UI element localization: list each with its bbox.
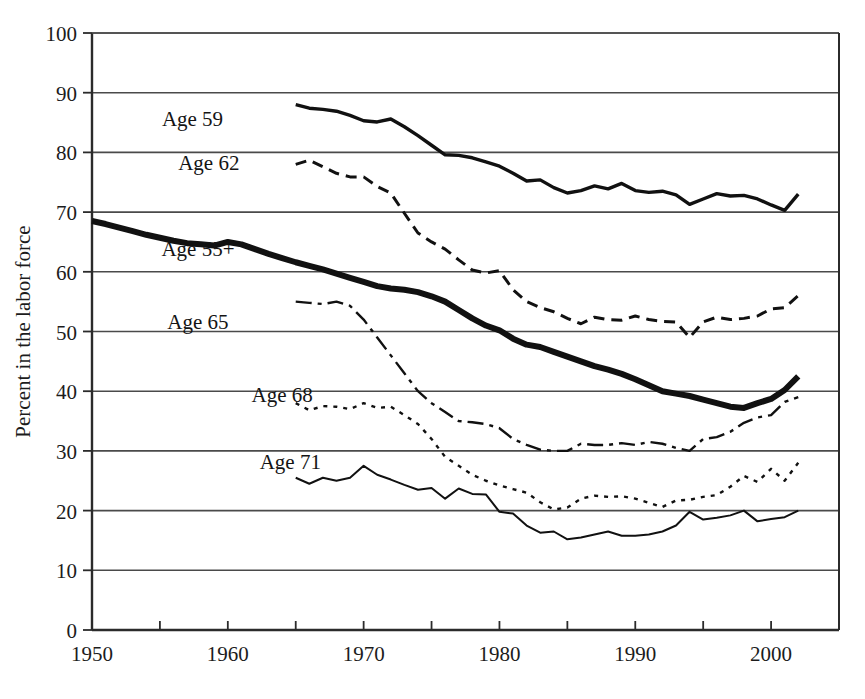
y-tick-label-60: 60 [56,261,77,285]
y-tick-label-80: 80 [56,141,77,165]
chart-figure: 0102030405060708090100 19501960197019801… [0,0,865,699]
y-tick-label-10: 10 [56,559,77,583]
chart-background [0,0,865,699]
labor-force-participation-line-chart: 0102030405060708090100 19501960197019801… [0,0,865,699]
y-tick-label-30: 30 [56,440,77,464]
y-tick-label-100: 100 [46,22,78,46]
series-label-age-59: Age 59 [162,107,223,131]
y-tick-label-20: 20 [56,500,77,524]
series-label-age-55: Age 55+ [161,237,234,261]
x-tick-label-1970: 1970 [343,642,385,666]
series-label-age-65: Age 65 [167,310,228,334]
y-tick-label-70: 70 [56,201,77,225]
y-axis-title-group: Percent in the labor force [11,225,35,437]
x-tick-label-2000: 2000 [750,642,792,666]
y-tick-label-50: 50 [56,321,77,345]
y-tick-label-40: 40 [56,380,77,404]
x-tick-label-1980: 1980 [478,642,520,666]
series-label-age-62: Age 62 [178,151,239,175]
series-label-age-68: Age 68 [252,383,313,407]
x-tick-label-1950: 1950 [71,642,113,666]
y-axis-title: Percent in the labor force [11,225,35,437]
y-tick-label-90: 90 [56,82,77,106]
x-tick-label-1960: 1960 [207,642,249,666]
series-label-age-71: Age 71 [260,450,321,474]
x-tick-label-1990: 1990 [614,642,656,666]
y-tick-label-0: 0 [67,619,78,643]
